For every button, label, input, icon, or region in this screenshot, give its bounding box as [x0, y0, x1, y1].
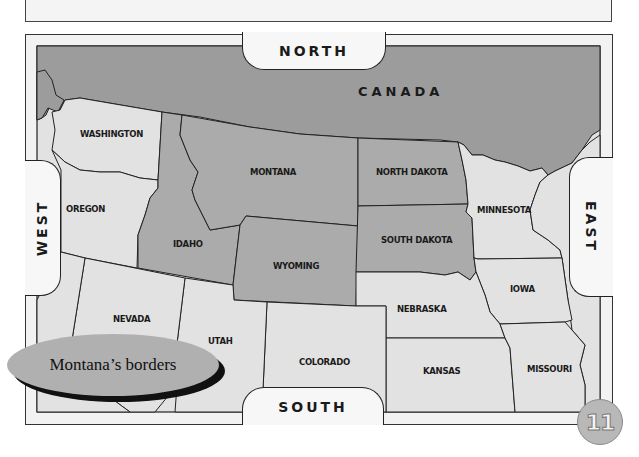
caption-oval: Montana’s borders: [7, 334, 219, 396]
label-iowa: IOWA: [510, 284, 535, 294]
label-south-dakota: SOUTH DAKOTA: [381, 235, 453, 245]
label-nebraska: NEBRASKA: [397, 304, 447, 314]
compass-east-label: EAST: [584, 201, 600, 253]
label-minnesota: MINNESOTA: [477, 205, 532, 215]
label-canada: CANADA: [358, 84, 443, 99]
compass-north-tab: NORTH: [242, 32, 386, 70]
label-montana: MONTANA: [250, 167, 297, 177]
caption-text: Montana’s borders: [49, 355, 176, 375]
label-kansas: KANSAS: [423, 366, 460, 376]
label-idaho: IDAHO: [173, 239, 203, 249]
label-north-dakota: NORTH DAKOTA: [376, 167, 448, 177]
label-missouri: MISSOURI: [527, 364, 572, 374]
label-washington: WASHINGTON: [80, 129, 143, 139]
page-number-badge: 11: [577, 399, 623, 445]
compass-south-label: SOUTH: [278, 399, 348, 415]
label-nevada: NEVADA: [113, 314, 151, 324]
caption-background: Montana’s borders: [7, 334, 219, 396]
compass-north-label: NORTH: [279, 43, 349, 59]
compass-east-tab: EAST: [569, 157, 613, 297]
compass-west-label: WEST: [35, 200, 51, 257]
compass-west-tab: WEST: [25, 160, 61, 296]
page-number: 11: [586, 410, 615, 435]
label-wyoming: WYOMING: [273, 261, 319, 271]
label-oregon: OREGON: [66, 204, 105, 214]
label-colorado: COLORADO: [299, 357, 350, 367]
compass-south-tab: SOUTH: [242, 387, 384, 425]
